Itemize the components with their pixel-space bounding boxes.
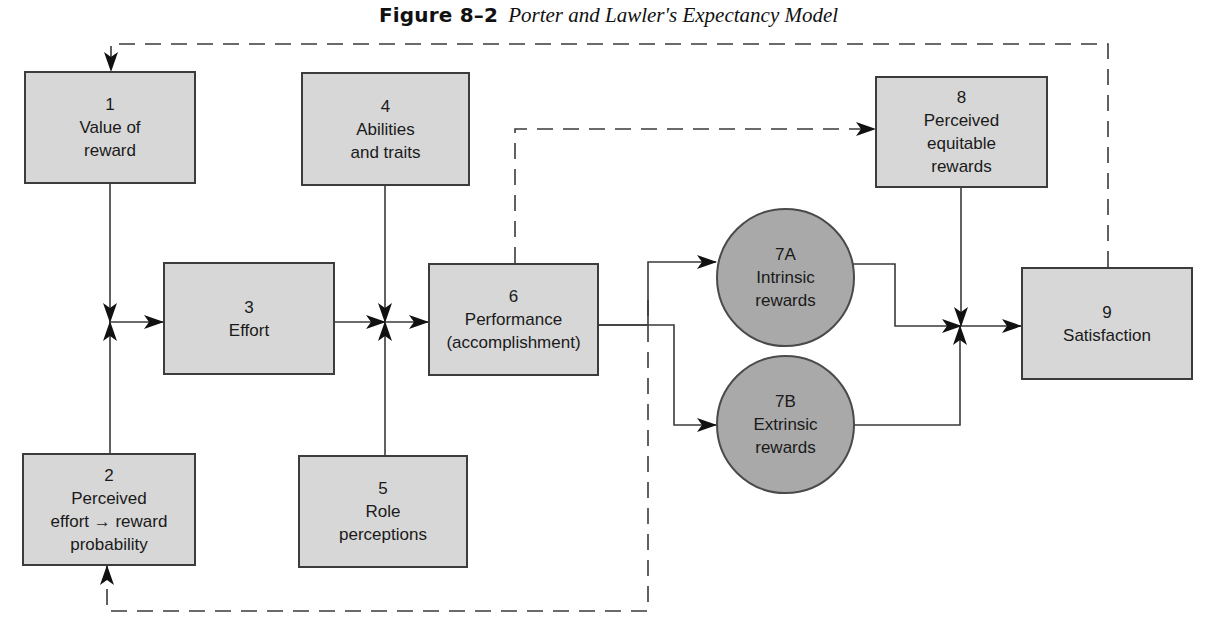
node-label: Abilities and traits xyxy=(351,118,421,164)
node-label: Perceived equitable rewards xyxy=(924,109,1000,178)
node-number: 3 xyxy=(244,296,253,319)
node-4-abilities-and-traits: 4 Abilities and traits xyxy=(301,72,470,186)
node-label: Role perceptions xyxy=(339,500,427,546)
edge-7b-to-junction-c xyxy=(853,326,960,425)
node-number: 1 xyxy=(105,93,114,116)
node-7a-intrinsic-rewards: 7A Intrinsic rewards xyxy=(716,208,855,347)
node-number: 7B xyxy=(775,390,796,413)
node-1-value-of-reward: 1 Value of reward xyxy=(24,71,196,184)
node-label: Performance (accomplishment) xyxy=(446,308,580,354)
node-number: 2 xyxy=(104,464,113,487)
node-number: 5 xyxy=(378,477,387,500)
node-number: 7A xyxy=(775,243,796,266)
node-9-satisfaction: 9 Satisfaction xyxy=(1021,267,1193,380)
edge-6-to-7a xyxy=(599,262,716,325)
node-number: 4 xyxy=(381,95,390,118)
node-label: Value of reward xyxy=(79,116,140,162)
node-8-perceived-equitable-rewards: 8 Perceived equitable rewards xyxy=(875,76,1048,188)
edge-7a-to-junction-c xyxy=(853,264,961,326)
edge-6-to-7b xyxy=(599,325,716,425)
node-number: 6 xyxy=(509,285,518,308)
node-2-perceived-effort-reward-probability: 2 Perceived effort → reward probability xyxy=(22,453,196,566)
node-3-effort: 3 Effort xyxy=(163,262,335,375)
node-number: 9 xyxy=(1102,301,1111,324)
node-label: Effort xyxy=(229,319,269,342)
node-7b-extrinsic-rewards: 7B Extrinsic rewards xyxy=(716,355,855,494)
node-number: 8 xyxy=(957,86,966,109)
node-label: Intrinsic rewards xyxy=(755,266,815,312)
node-5-role-perceptions: 5 Role perceptions xyxy=(298,455,468,568)
node-6-performance: 6 Performance (accomplishment) xyxy=(428,263,599,376)
node-label: Satisfaction xyxy=(1063,324,1151,347)
node-label: Extrinsic rewards xyxy=(753,413,817,459)
node-label: Perceived effort → reward probability xyxy=(51,487,168,556)
